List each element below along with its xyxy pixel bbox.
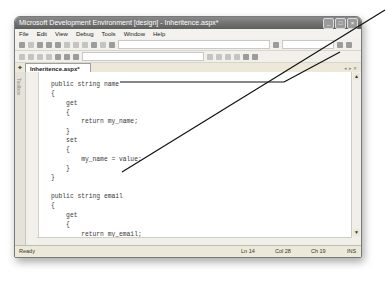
tab-nav-icons[interactable]: ◂ ▸ ✕ bbox=[344, 65, 357, 71]
window-title: Microsoft Development Environment [desig… bbox=[19, 19, 219, 26]
menu-view[interactable]: View bbox=[55, 29, 68, 39]
title-bar[interactable]: Microsoft Development Environment [desig… bbox=[15, 17, 361, 29]
toolbox-label: Toolbox bbox=[16, 78, 22, 95]
add-item-icon[interactable] bbox=[28, 42, 34, 48]
ide-window: Microsoft Development Environment [desig… bbox=[14, 16, 362, 258]
text-editor-toolbar bbox=[15, 51, 361, 63]
refresh-icon[interactable] bbox=[46, 54, 52, 60]
minimize-button[interactable]: _ bbox=[323, 18, 334, 29]
menu-edit[interactable]: Edit bbox=[37, 29, 47, 39]
find-combo[interactable] bbox=[282, 40, 334, 49]
close-button[interactable]: × bbox=[347, 18, 358, 29]
new-project-icon[interactable] bbox=[19, 42, 25, 48]
start-icon[interactable] bbox=[109, 42, 115, 48]
menu-help[interactable]: Help bbox=[153, 29, 165, 39]
scroll-up-icon[interactable]: ▲ bbox=[353, 73, 360, 80]
code-editor[interactable]: public string name { get { return my_nam… bbox=[39, 72, 351, 246]
maximize-button[interactable]: □ bbox=[335, 18, 346, 29]
stop-icon[interactable] bbox=[37, 54, 43, 60]
status-line: Ln 14 bbox=[241, 246, 255, 257]
open-icon[interactable] bbox=[37, 42, 43, 48]
url-combo[interactable] bbox=[82, 52, 204, 61]
paste-icon[interactable] bbox=[82, 42, 88, 48]
outdent-icon[interactable] bbox=[243, 54, 249, 60]
status-col: Col 28 bbox=[275, 246, 291, 257]
find-icon[interactable] bbox=[273, 42, 279, 48]
properties-icon[interactable] bbox=[346, 42, 352, 48]
solution-explorer-icon[interactable] bbox=[337, 42, 343, 48]
undo-icon[interactable] bbox=[91, 42, 97, 48]
uncomment-icon[interactable] bbox=[252, 54, 258, 60]
menu-tools[interactable]: Tools bbox=[102, 29, 116, 39]
save-icon[interactable] bbox=[46, 42, 52, 48]
favorites-icon[interactable] bbox=[73, 54, 79, 60]
status-mode: INS bbox=[347, 246, 356, 257]
status-ready: Ready bbox=[19, 246, 35, 257]
menu-debug[interactable]: Debug bbox=[76, 29, 94, 39]
copy-icon[interactable] bbox=[73, 42, 79, 48]
indent-icon[interactable] bbox=[207, 54, 213, 60]
save-all-icon[interactable] bbox=[55, 42, 61, 48]
menu-file[interactable]: File bbox=[19, 29, 29, 39]
redo-icon[interactable] bbox=[100, 42, 106, 48]
code-text[interactable]: public string name { get { return my_nam… bbox=[39, 72, 351, 246]
editor-gutter bbox=[26, 72, 39, 246]
status-bar: Ready Ln 14 Col 28 Ch 19 INS bbox=[15, 245, 361, 257]
bookmark-icon[interactable] bbox=[225, 54, 231, 60]
search-web-icon[interactable] bbox=[64, 54, 70, 60]
format-icon[interactable] bbox=[234, 54, 240, 60]
forward-icon[interactable] bbox=[28, 54, 34, 60]
scroll-down-icon[interactable]: ▼ bbox=[353, 229, 360, 236]
vertical-scrollbar[interactable]: ▲ ▼ bbox=[351, 72, 361, 246]
comment-icon[interactable] bbox=[216, 54, 222, 60]
status-ch: Ch 19 bbox=[311, 246, 326, 257]
solution-config-dropdown[interactable] bbox=[118, 40, 270, 49]
back-icon[interactable] bbox=[19, 54, 25, 60]
menu-bar: File Edit View Debug Tools Window Help bbox=[15, 29, 361, 39]
home-icon[interactable] bbox=[55, 54, 61, 60]
toolbox-panel[interactable]: Toolbox bbox=[15, 72, 26, 246]
menu-window[interactable]: Window bbox=[124, 29, 145, 39]
cut-icon[interactable] bbox=[64, 42, 70, 48]
standard-toolbar bbox=[15, 39, 361, 51]
